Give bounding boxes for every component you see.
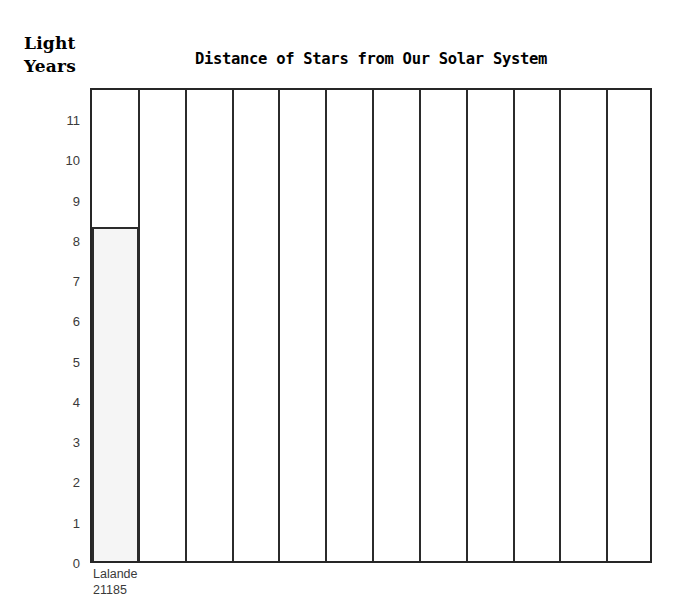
column-divider <box>325 90 327 561</box>
y-axis-tick-label: 0 <box>36 556 80 571</box>
y-axis-tick-label: 10 <box>36 153 80 168</box>
y-axis-title: Light Years <box>24 32 94 78</box>
y-axis-title-line-1: Light <box>24 32 94 55</box>
x-axis: Lalande21185 <box>90 566 652 608</box>
bar <box>92 227 139 561</box>
column-divider <box>232 90 234 561</box>
chart-title: Distance of Stars from Our Solar System <box>90 50 652 68</box>
y-axis-tick-label: 9 <box>36 193 80 208</box>
column-divider <box>278 90 280 561</box>
x-axis-category-label-line-1: Lalande <box>93 566 168 582</box>
column-divider <box>606 90 608 561</box>
y-axis-tick-label: 11 <box>36 113 80 128</box>
column-divider <box>466 90 468 561</box>
column-divider <box>559 90 561 561</box>
column-divider <box>419 90 421 561</box>
y-axis-tick-label: 3 <box>36 435 80 450</box>
y-axis-tick-label: 6 <box>36 314 80 329</box>
plot-area <box>90 88 652 563</box>
y-axis-tick-label: 4 <box>36 394 80 409</box>
x-axis-category-label: Lalande21185 <box>93 566 168 598</box>
column-divider <box>185 90 187 561</box>
y-axis-tick-label: 5 <box>36 354 80 369</box>
y-axis-tick-label: 1 <box>36 515 80 530</box>
y-axis-tick-label: 2 <box>36 475 80 490</box>
y-axis-tick-label: 7 <box>36 274 80 289</box>
y-axis: 11109876543210 <box>26 88 80 563</box>
x-axis-category-label-line-2: 21185 <box>93 582 168 598</box>
y-axis-title-line-2: Years <box>24 55 94 78</box>
column-divider <box>513 90 515 561</box>
y-axis-tick-label: 8 <box>36 233 80 248</box>
plot-inner <box>92 90 650 561</box>
column-divider <box>372 90 374 561</box>
